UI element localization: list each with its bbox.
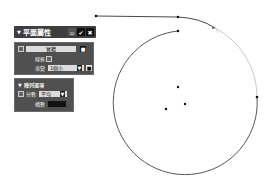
display-panel: 實體 ■ 線框 漸變 1個小 ▼ ■	[14, 42, 94, 75]
minimize-button[interactable]: ▫	[68, 28, 76, 36]
distribution-label: 分數	[26, 90, 36, 97]
count-label: 構數	[35, 100, 45, 107]
vertex-point	[177, 30, 180, 33]
vertex-point	[177, 16, 180, 19]
array-options-header: 陣列選項	[24, 81, 44, 88]
confirm-button[interactable]: ✔	[77, 28, 85, 36]
vertex-point	[95, 15, 98, 18]
outer-arc-faint	[215, 28, 257, 96]
distribution-dropdown[interactable]: 平均 ▼	[39, 91, 67, 97]
count-input[interactable]	[48, 101, 66, 107]
properties-titlebar[interactable]: ▼ 平面屬性 ▫ ✔ ✖	[14, 26, 96, 38]
array-options-panel: ▼ 陣列選項 分數 平均 ▼ 構數	[14, 78, 74, 112]
wireframe-label: 線框	[35, 55, 45, 62]
outer-path	[96, 16, 215, 28]
solid-checkbox[interactable]	[18, 46, 24, 52]
wireframe-checkbox[interactable]	[46, 56, 52, 62]
gradient-label: 漸變	[35, 64, 45, 71]
vertex-point	[212, 27, 214, 29]
lock-icon[interactable]: ■	[86, 65, 92, 71]
solid-toggle-icon[interactable]: ■	[80, 46, 86, 52]
chevron-down-icon: ▼	[77, 65, 82, 71]
center-point	[177, 86, 179, 88]
panel-title: 平面屬性	[23, 27, 51, 37]
gradient-dropdown[interactable]: 1個小 ▼	[48, 65, 84, 71]
vertex-point	[256, 96, 259, 99]
close-button[interactable]: ✖	[86, 28, 94, 36]
center-point	[184, 103, 186, 105]
solid-button[interactable]: 實體	[26, 46, 76, 52]
distribution-checkbox[interactable]	[18, 91, 24, 97]
expand-icon[interactable]: ▼	[18, 82, 22, 88]
center-point	[165, 108, 167, 110]
chevron-down-icon: ▼	[60, 91, 65, 97]
circle-arc	[113, 31, 257, 175]
collapse-icon[interactable]: ▼	[17, 29, 21, 35]
